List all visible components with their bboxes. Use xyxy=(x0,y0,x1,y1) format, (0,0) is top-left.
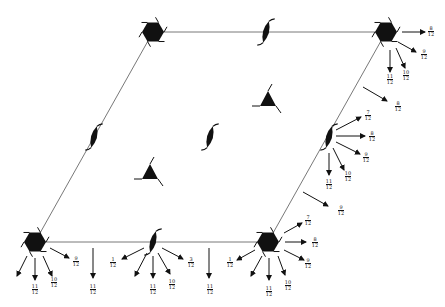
sixfold-screw-icon xyxy=(372,17,400,46)
fraction-label: 1112 xyxy=(148,284,158,295)
fraction-label: 912 xyxy=(419,49,429,60)
arrow xyxy=(158,253,170,274)
fraction-label: 112 xyxy=(108,257,118,268)
arrow xyxy=(251,256,262,276)
symmetry-diagram: 8129121112101281271281291210121112912712… xyxy=(0,0,445,307)
fraction-label: 1012 xyxy=(283,280,293,291)
fraction-label: 1112 xyxy=(385,74,395,85)
fraction-label: 812 xyxy=(426,26,436,37)
fraction-label: 912 xyxy=(336,205,346,216)
arrow xyxy=(50,248,69,258)
arrow xyxy=(284,250,304,260)
threefold-screw-icon xyxy=(134,157,163,186)
fraction-label: 1112 xyxy=(205,284,215,295)
threefold-screw-icon xyxy=(252,84,281,113)
fraction-label: 312 xyxy=(186,257,196,268)
sixfold-screw-icon xyxy=(21,227,49,256)
fraction-label: 1112 xyxy=(88,284,98,295)
arrow xyxy=(336,117,361,130)
diagram-canvas xyxy=(0,0,445,307)
arrow xyxy=(162,248,183,259)
arrow xyxy=(43,256,52,276)
arrow xyxy=(396,48,405,68)
twofold-screw-icon xyxy=(201,121,218,153)
arrow xyxy=(237,250,255,260)
fraction-label: 812 xyxy=(393,101,403,112)
sixfold-screw-icon xyxy=(139,17,167,46)
fraction-label: 112 xyxy=(225,257,235,268)
fraction-label: 1012 xyxy=(401,70,411,81)
fraction-label: 912 xyxy=(303,258,313,269)
arrow xyxy=(303,192,328,206)
fraction-label: 1112 xyxy=(264,286,274,297)
fraction-label: 812 xyxy=(310,237,320,248)
fraction-label: 912 xyxy=(361,152,371,163)
fraction-label: 912 xyxy=(71,256,81,267)
sixfold-screw-icon xyxy=(254,227,282,256)
fraction-label: 1112 xyxy=(324,179,334,190)
arrow xyxy=(363,87,387,101)
arrow xyxy=(278,256,285,275)
fraction-label: 1012 xyxy=(343,171,353,182)
arrow xyxy=(135,253,147,276)
fraction-label: 812 xyxy=(367,131,377,142)
fraction-label: 1012 xyxy=(167,279,177,290)
arrow xyxy=(122,248,144,259)
twofold-axes xyxy=(85,16,337,258)
fraction-label: 712 xyxy=(303,215,313,226)
arrow xyxy=(336,142,360,154)
arrow xyxy=(333,148,344,170)
fraction-label: 1012 xyxy=(49,277,59,288)
arrow xyxy=(284,223,302,233)
fraction-label: 712 xyxy=(363,110,373,121)
arrow xyxy=(17,256,27,276)
fraction-label: 1112 xyxy=(30,284,40,295)
twofold-screw-icon xyxy=(320,121,337,153)
arrow xyxy=(398,42,416,52)
